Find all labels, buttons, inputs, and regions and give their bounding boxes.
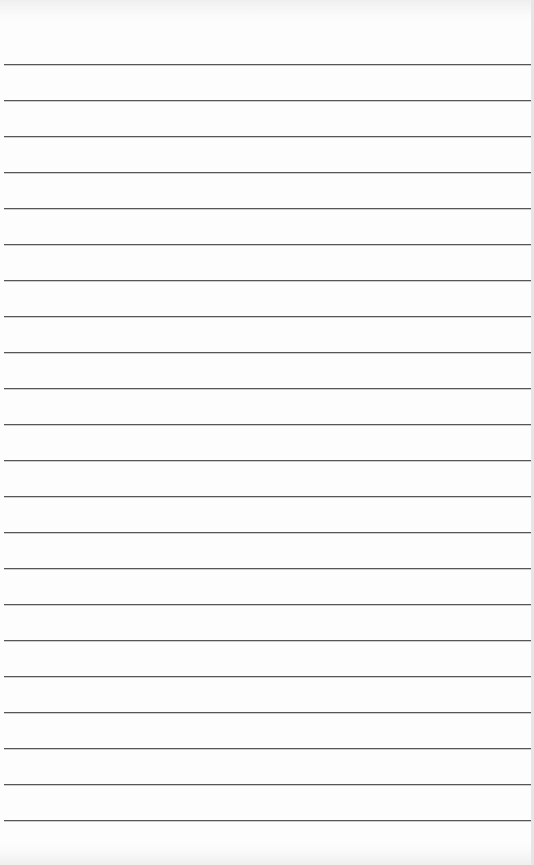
ruled-line	[4, 784, 531, 785]
ruled-line	[4, 568, 531, 569]
ruled-line	[4, 208, 531, 209]
ruled-line	[4, 460, 531, 461]
ruled-line	[4, 172, 531, 173]
ruled-line	[4, 388, 531, 389]
ruled-line	[4, 352, 531, 353]
ruled-line	[4, 424, 531, 425]
ruled-line	[4, 712, 531, 713]
ruled-line	[4, 100, 531, 101]
ruled-line	[4, 820, 531, 821]
ruled-line	[4, 280, 531, 281]
ruled-line	[4, 604, 531, 605]
ruled-line	[4, 676, 531, 677]
bottom-edge-shadow	[0, 843, 534, 865]
ruled-line	[4, 532, 531, 533]
top-edge-shadow	[0, 0, 534, 22]
ruled-line	[4, 244, 531, 245]
ruled-line	[4, 748, 531, 749]
lined-paper-sheet	[0, 0, 534, 865]
ruled-line	[4, 496, 531, 497]
ruled-line	[4, 640, 531, 641]
ruled-line	[4, 316, 531, 317]
ruled-line	[4, 64, 531, 65]
ruled-line	[4, 136, 531, 137]
